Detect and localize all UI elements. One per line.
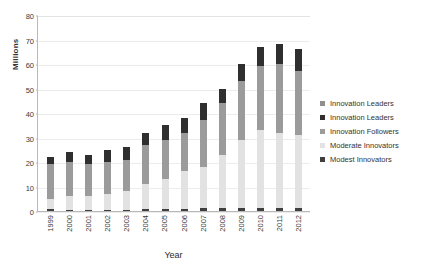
bar-segment bbox=[181, 133, 188, 171]
stacked-bar[interactable] bbox=[85, 155, 92, 211]
stacked-bar[interactable] bbox=[47, 157, 54, 211]
bar-group bbox=[38, 16, 310, 211]
bar-segment bbox=[85, 164, 92, 196]
bar-segment bbox=[104, 150, 111, 162]
x-axis-tick-label: 2008 bbox=[217, 215, 226, 232]
bar-segment bbox=[162, 140, 169, 179]
bar-segment bbox=[85, 196, 92, 209]
bar-segment bbox=[142, 145, 149, 184]
bar-segment bbox=[295, 208, 302, 211]
bar-segment bbox=[257, 208, 264, 211]
bar-segment bbox=[123, 160, 130, 192]
bar-segment bbox=[276, 208, 283, 211]
y-axis-tick-label: 50 bbox=[26, 85, 34, 94]
legend-item-label: Innovation Followers bbox=[330, 127, 399, 136]
bar-segment bbox=[47, 209, 54, 211]
bar-segment bbox=[219, 89, 226, 104]
stacked-bar[interactable] bbox=[295, 49, 302, 211]
stacked-bar[interactable] bbox=[219, 89, 226, 211]
stacked-bar[interactable] bbox=[123, 147, 130, 211]
x-axis-tick-label: 2012 bbox=[294, 215, 303, 232]
bar-slot bbox=[213, 16, 232, 211]
legend-swatch-icon bbox=[320, 115, 325, 120]
bar-segment bbox=[276, 64, 283, 133]
bar-segment bbox=[47, 199, 54, 209]
x-label-slot: 2002 bbox=[97, 213, 116, 253]
y-axis-title: Millions bbox=[2, 0, 11, 14]
stacked-bar[interactable] bbox=[200, 103, 207, 211]
legend-item-label: Innovation Leaders bbox=[330, 113, 394, 122]
legend-swatch-icon bbox=[320, 143, 325, 148]
bar-slot bbox=[79, 16, 98, 211]
legend-item-label: Moderate Innovators bbox=[330, 141, 399, 150]
bar-segment bbox=[85, 210, 92, 211]
x-axis-tick-label: 2000 bbox=[64, 215, 73, 232]
x-axis-tick-label: 2001 bbox=[83, 215, 92, 232]
legend-item[interactable]: Innovation Leaders bbox=[320, 110, 432, 124]
bar-segment bbox=[295, 49, 302, 71]
bar-slot bbox=[117, 16, 136, 211]
bar-segment bbox=[142, 184, 149, 209]
y-axis-tick-label: 80 bbox=[26, 12, 34, 21]
bar-segment bbox=[85, 155, 92, 165]
bar-segment bbox=[295, 71, 302, 135]
plot-area: 01020304050607080 bbox=[37, 16, 310, 212]
x-label-slot: 2007 bbox=[193, 213, 212, 253]
stacked-bar-chart: Millions 01020304050607080 1999200020012… bbox=[0, 0, 434, 272]
legend-swatch-icon bbox=[320, 129, 325, 134]
stacked-bar[interactable] bbox=[276, 44, 283, 211]
bar-segment bbox=[47, 164, 54, 198]
x-axis-tick-labels: 1999200020012002200320042005200620072008… bbox=[37, 213, 310, 253]
bar-segment bbox=[66, 152, 73, 162]
bar-segment bbox=[47, 157, 54, 164]
bar-segment bbox=[104, 194, 111, 210]
bar-segment bbox=[181, 209, 188, 211]
x-label-slot: 2000 bbox=[59, 213, 78, 253]
bar-segment bbox=[181, 118, 188, 133]
bar-segment bbox=[142, 209, 149, 211]
bar-segment bbox=[66, 162, 73, 196]
bar-segment bbox=[123, 191, 130, 210]
x-axis-title: Year bbox=[37, 250, 310, 260]
stacked-bar[interactable] bbox=[238, 64, 245, 211]
bar-segment bbox=[162, 179, 169, 208]
stacked-bar[interactable] bbox=[181, 118, 188, 211]
x-axis-tick-label: 2005 bbox=[160, 215, 169, 232]
bar-slot bbox=[60, 16, 79, 211]
bar-slot bbox=[251, 16, 270, 211]
y-axis-tick-label: 70 bbox=[26, 36, 34, 45]
x-label-slot: 2012 bbox=[289, 213, 308, 253]
bar-segment bbox=[200, 208, 207, 211]
x-axis-tick-label: 2002 bbox=[102, 215, 111, 232]
bar-segment bbox=[238, 140, 245, 208]
y-axis-tick-label: 60 bbox=[26, 61, 34, 70]
y-axis-tick-label: 10 bbox=[26, 183, 34, 192]
legend-swatch-icon bbox=[320, 157, 325, 162]
x-label-slot: 2005 bbox=[155, 213, 174, 253]
bar-segment bbox=[238, 208, 245, 211]
y-axis-tick-label: 20 bbox=[26, 159, 34, 168]
legend-item[interactable]: Modest Innovators bbox=[320, 152, 432, 166]
bar-slot bbox=[136, 16, 155, 211]
x-label-slot: 2006 bbox=[174, 213, 193, 253]
x-label-slot: 1999 bbox=[40, 213, 59, 253]
x-axis-title-label: Year bbox=[164, 250, 182, 260]
stacked-bar[interactable] bbox=[66, 152, 73, 211]
x-axis-tick-label: 2006 bbox=[179, 215, 188, 232]
bar-segment bbox=[295, 135, 302, 208]
legend-item[interactable]: Moderate Innovators bbox=[320, 138, 432, 152]
stacked-bar[interactable] bbox=[142, 133, 149, 211]
y-axis-tick-label: 0 bbox=[30, 208, 34, 217]
x-label-slot: 2008 bbox=[212, 213, 231, 253]
stacked-bar[interactable] bbox=[104, 150, 111, 211]
bar-slot bbox=[175, 16, 194, 211]
chart-legend: Innovation LeadersInnovation LeadersInno… bbox=[320, 96, 432, 166]
bar-slot bbox=[232, 16, 251, 211]
stacked-bar[interactable] bbox=[257, 47, 264, 211]
legend-item[interactable]: Innovation Followers bbox=[320, 124, 432, 138]
legend-item-label: Modest Innovators bbox=[330, 155, 392, 164]
legend-item[interactable]: Innovation Leaders bbox=[320, 96, 432, 110]
bar-segment bbox=[123, 210, 130, 211]
y-axis-tick-label: 30 bbox=[26, 134, 34, 143]
stacked-bar[interactable] bbox=[162, 125, 169, 211]
